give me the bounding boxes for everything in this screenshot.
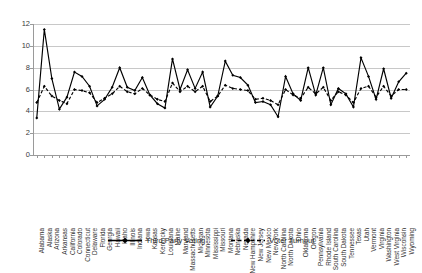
x-axis-tick-mark	[203, 155, 204, 158]
x-axis-tick-mark	[157, 155, 158, 158]
x-axis-tick-mark	[384, 155, 385, 158]
y-axis-tick-label: 0	[2, 151, 30, 159]
x-axis-tick-label: South Dakota	[341, 228, 347, 267]
x-axis-tick-mark	[52, 155, 53, 158]
x-axis-tick-mark	[112, 155, 113, 158]
x-axis-tick-mark	[301, 155, 302, 158]
x-axis-tick-mark	[399, 155, 400, 158]
x-axis-tick-mark	[67, 155, 68, 158]
x-axis-tick-mark	[218, 155, 219, 158]
y-axis-tick-label: 2	[2, 129, 30, 137]
x-axis-tick-mark	[286, 155, 287, 158]
x-axis-tick-mark	[369, 155, 370, 158]
x-axis-tick-mark	[346, 155, 347, 158]
x-axis-tick-mark	[74, 155, 75, 158]
y-axis-tick-label: 8	[2, 64, 30, 72]
x-axis-tick-mark	[37, 155, 38, 158]
x-axis-tick-mark	[293, 155, 294, 158]
x-axis-tick-mark	[323, 155, 324, 158]
x-axis-tick-mark	[233, 155, 234, 158]
x-axis-tick-mark	[353, 155, 354, 158]
x-axis-tick-mark	[338, 155, 339, 158]
x-axis-tick-mark	[142, 155, 143, 158]
x-axis-tick-mark	[172, 155, 173, 158]
x-axis-tick-mark	[331, 155, 332, 158]
x-axis-tick-mark	[44, 155, 45, 158]
x-axis-tick-mark	[308, 155, 309, 158]
x-axis-tick-label: New Hampshire	[250, 228, 256, 273]
chart-legend: Third Party Voting Voter Turnout	[0, 236, 422, 245]
x-axis-tick-label: South Carolina	[333, 228, 339, 270]
y-axis: 024681012	[0, 24, 30, 155]
x-axis-tick-mark	[255, 155, 256, 158]
x-axis-tick-mark	[248, 155, 249, 158]
x-axis-tick-mark	[105, 155, 106, 158]
gridline	[33, 111, 410, 112]
x-axis-tick-label: Massachusetts	[190, 228, 196, 271]
x-axis-tick-mark	[188, 155, 189, 158]
x-axis-tick-mark	[263, 155, 264, 158]
legend-item-third-party-voting: Third Party Voting	[108, 236, 206, 245]
x-axis-tick-mark	[210, 155, 211, 158]
x-axis-tick-mark	[180, 155, 181, 158]
x-axis-tick-mark	[225, 155, 226, 158]
legend-label-voter-turnout: Voter Turnout	[269, 237, 314, 245]
gridline	[33, 68, 410, 69]
x-axis-tick-mark	[195, 155, 196, 158]
gridline	[33, 90, 410, 91]
x-axis-tick-mark	[316, 155, 317, 158]
gridline	[33, 46, 410, 47]
x-axis-tick-mark	[361, 155, 362, 158]
y-axis-tick-label: 10	[2, 42, 30, 50]
x-axis-tick-mark	[271, 155, 272, 158]
x-axis-tick-mark	[120, 155, 121, 158]
x-axis-tick-mark	[278, 155, 279, 158]
x-axis-tick-mark	[127, 155, 128, 158]
x-axis-tick-mark	[82, 155, 83, 158]
gridline	[33, 133, 410, 134]
x-axis-tick-mark	[391, 155, 392, 158]
y-axis-tick-label: 12	[2, 20, 30, 28]
x-axis-tick-mark	[406, 155, 407, 158]
legend-dashed-line-icon	[231, 236, 265, 245]
legend-solid-line-icon	[108, 236, 142, 245]
y-axis-tick-label: 6	[2, 86, 30, 94]
x-axis-tick-mark	[165, 155, 166, 158]
gridline	[33, 24, 410, 25]
x-axis-tick-mark	[376, 155, 377, 158]
legend-label-third-party-voting: Third Party Voting	[146, 237, 206, 245]
x-axis-tick-label: North Dakota	[288, 228, 294, 266]
x-axis-tick-mark	[97, 155, 98, 158]
y-axis-tick-label: 4	[2, 107, 30, 115]
x-axis-tick-label: Pennsylvania	[318, 228, 324, 266]
y-axis-line	[33, 24, 34, 156]
x-axis-tick-mark	[59, 155, 60, 158]
x-axis-labels: AlabamaAlaskaArizonaArkansasCaliforniaCo…	[33, 158, 410, 230]
legend-item-voter-turnout: Voter Turnout	[231, 236, 314, 245]
x-axis-tick-mark	[240, 155, 241, 158]
x-axis-tick-label: New Mexico	[266, 228, 272, 263]
x-axis-tick-mark	[135, 155, 136, 158]
plot-area	[33, 24, 410, 155]
x-axis-tick-mark	[150, 155, 151, 158]
x-axis-tick-mark	[90, 155, 91, 158]
